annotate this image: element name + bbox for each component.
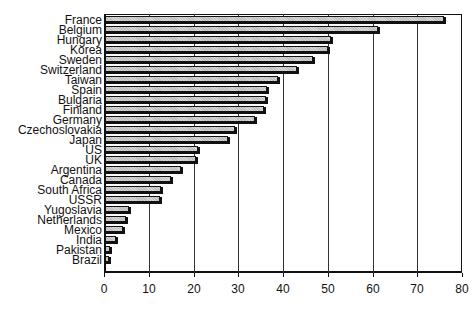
bar — [105, 16, 444, 24]
bar — [105, 246, 110, 254]
bar — [105, 86, 267, 94]
bar — [105, 206, 129, 214]
bar — [105, 236, 116, 244]
bar — [105, 46, 328, 54]
tick-mark — [104, 273, 105, 277]
bar — [105, 116, 255, 124]
bar — [105, 136, 228, 144]
bar — [105, 156, 196, 164]
bar — [105, 106, 264, 114]
bar — [105, 216, 126, 224]
bar — [105, 256, 109, 264]
x-tick-label: 20 — [187, 282, 200, 296]
tick-mark — [149, 273, 150, 277]
tick-mark — [462, 273, 463, 277]
gridline — [417, 14, 418, 273]
x-tick-label: 10 — [142, 282, 155, 296]
tick-mark — [417, 273, 418, 277]
tick-mark — [373, 273, 374, 277]
bar — [105, 66, 297, 74]
bar — [105, 36, 331, 44]
x-tick-label: 80 — [455, 282, 468, 296]
x-tick-label: 60 — [366, 282, 379, 296]
bar — [105, 56, 313, 64]
tick-mark — [328, 273, 329, 277]
bar — [105, 226, 123, 234]
bar — [105, 166, 181, 174]
x-tick-label: 0 — [101, 282, 108, 296]
tick-mark — [194, 273, 195, 277]
x-tick-label: 40 — [276, 282, 289, 296]
bar — [105, 26, 378, 34]
gridline — [373, 14, 374, 273]
bar — [105, 126, 235, 134]
category-label: Brazil — [72, 255, 102, 265]
x-tick-label: 70 — [410, 282, 423, 296]
x-tick-label: 50 — [321, 282, 334, 296]
bar — [105, 176, 171, 184]
bar — [105, 76, 278, 84]
tick-mark — [283, 273, 284, 277]
tick-mark — [238, 273, 239, 277]
bar-chart: FranceBelgiumHungaryKoreaSwedenSwitzerla… — [0, 0, 475, 309]
bar — [105, 96, 266, 104]
x-tick-label: 30 — [231, 282, 244, 296]
bar — [105, 186, 161, 194]
bar — [105, 196, 160, 204]
bar — [105, 146, 198, 154]
